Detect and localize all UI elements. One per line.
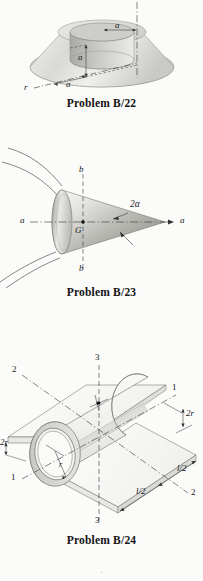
label-axis-a-right: a <box>180 216 185 225</box>
label-axis-b-top: b <box>79 165 84 174</box>
label-axis-2-right: 2 <box>191 488 196 497</box>
label-axis-1-right: 1 <box>172 383 177 392</box>
figure-problem-b-23: b b a a 2α G Problem B/23 <box>0 140 203 300</box>
caption-problem-b-24: Problem B/24 <box>0 534 203 546</box>
label-dim-l2-lower: l/2 <box>136 487 146 496</box>
label-dim-a-top: a <box>115 21 120 30</box>
label-dim-2r-right: 2r <box>186 409 194 418</box>
half-cylinder-plates-illustration <box>0 325 203 530</box>
figure-b23-canvas: b b a a 2α G <box>0 140 203 290</box>
cone-centroid-illustration <box>0 140 203 290</box>
label-dim-a-radial: a <box>66 80 71 89</box>
textbook-figure-page: a a a r Problem B/22 <box>0 0 203 581</box>
label-dim-a-vertical: a <box>78 53 83 62</box>
label-axis-2-left: 2 <box>12 365 17 374</box>
page-bottom-mark: · <box>0 568 203 577</box>
label-axis-b-bottom: b <box>79 264 84 273</box>
figure-b22-canvas: a a a r <box>0 0 203 100</box>
caption-problem-b-23: Problem B/23 <box>0 286 203 298</box>
frustum-cylinder-illustration <box>0 0 203 100</box>
label-dim-l2-upper: l/2 <box>177 464 187 473</box>
label-apex-angle: 2α <box>130 200 140 210</box>
figure-problem-b-24: 1 1 2 2 3 3 2r 2r l/2 l/2 r Problem B/24 <box>0 325 203 555</box>
label-centroid-g: G <box>75 226 82 235</box>
label-axis-a-left: a <box>20 216 25 225</box>
label-axis-1-left: 1 <box>11 473 16 482</box>
figure-problem-b-22: a a a r Problem B/22 <box>0 0 203 115</box>
caption-problem-b-22: Problem B/22 <box>0 97 203 109</box>
label-axis-3-bottom: 3 <box>95 516 100 525</box>
label-radius-r: r <box>59 461 62 469</box>
label-axis-r: r <box>24 83 28 92</box>
label-dim-2r-left: 2r <box>0 438 8 447</box>
figure-b24-canvas: 1 1 2 2 3 3 2r 2r l/2 l/2 r <box>0 325 203 530</box>
label-axis-3-top: 3 <box>95 353 100 362</box>
